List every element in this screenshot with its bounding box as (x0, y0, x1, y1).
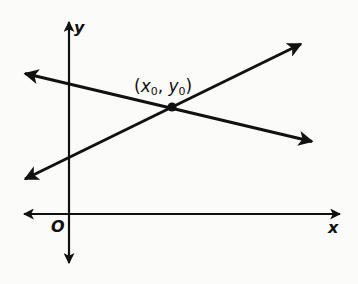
diagram-canvas: y O x (x0, y0) (0, 0, 358, 284)
intersection-label: (x0, y0) (134, 78, 192, 97)
label-close-paren: ) (186, 76, 193, 96)
coordinate-plane (0, 0, 358, 284)
label-open-paren: ( (134, 76, 141, 96)
x-axis-label: x (328, 220, 338, 236)
label-y-var: y (169, 76, 179, 96)
label-separator: , (158, 76, 169, 96)
intersection-point (168, 103, 177, 112)
y-axis-label: y (74, 20, 84, 36)
label-x-var: x (141, 76, 151, 96)
label-y-subscript: 0 (179, 85, 186, 98)
origin-label: O (51, 219, 65, 235)
label-x-subscript: 0 (151, 85, 158, 98)
increasing-line (25, 44, 301, 179)
